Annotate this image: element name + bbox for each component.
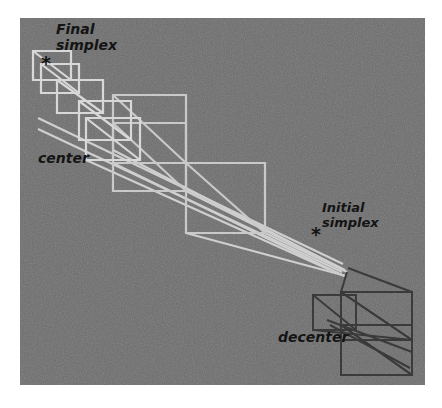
final-simplex-star-marker: * [41,52,51,74]
final-simplex-label-line1: Final [56,21,95,37]
initial-simplex-label-line1: Initial [322,200,365,215]
initial-simplex-label-line2: simplex [322,215,379,230]
final-simplex-label-line2: simplex [56,37,118,53]
simplex-trajectory-canvas: Final simplex center Initial simplex dec… [0,0,442,408]
center-label: center [38,150,90,166]
simplex-trajectory-figure: Final simplex center Initial simplex dec… [0,0,442,408]
initial-simplex-star-marker: * [311,223,321,245]
decenter-label: decenter [278,329,349,345]
